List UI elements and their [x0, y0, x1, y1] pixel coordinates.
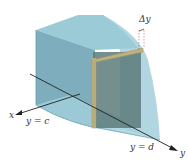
delta-y-label: Δy — [139, 15, 151, 24]
slice-edge-left — [92, 58, 96, 128]
cross-section-slice — [93, 52, 141, 128]
delta-y-bracket — [139, 29, 144, 31]
solid-volume-diagram — [0, 0, 188, 163]
y-equals-c-label: y = c — [26, 117, 49, 126]
y-equals-d-label: y = d — [130, 143, 154, 152]
y-axis-label: y — [180, 149, 185, 158]
y-axis-arrow-icon — [169, 145, 178, 151]
x-axis-label: x — [9, 111, 14, 120]
x-axis-arrow-icon — [15, 110, 22, 115]
